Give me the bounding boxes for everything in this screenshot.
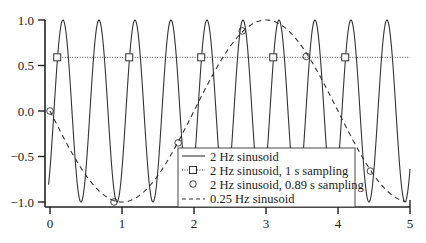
x-tick-label: 5 — [407, 216, 414, 231]
x-tick-label: 2 — [191, 216, 198, 231]
y-tick-label: 0.5 — [18, 58, 34, 73]
x-tick-label: 1 — [119, 216, 126, 231]
x-tick-label: 0 — [47, 216, 54, 231]
legend-label: 2 Hz sinusoid, 1 s sampling — [210, 164, 349, 178]
x-tick-label: 3 — [263, 216, 270, 231]
circle-marker — [175, 140, 182, 147]
square-marker — [126, 54, 133, 61]
y-tick-label: −0.5 — [10, 149, 34, 164]
y-tick-label: 0.0 — [18, 104, 34, 119]
square-marker — [342, 54, 349, 61]
legend-label: 2 Hz sinusoid, 0.89 s sampling — [210, 178, 365, 192]
legend-label: 2 Hz sinusoid — [210, 150, 280, 164]
square-marker — [198, 54, 205, 61]
x-tick-label: 4 — [335, 216, 342, 231]
legend: 2 Hz sinusoid 2 Hz sinusoid, 1 s samplin… — [178, 148, 365, 207]
aliasing-chart: 1.0 0.5 0.0 −0.5 −1.0 0 1 2 3 4 5 2 Hz s… — [0, 0, 426, 243]
y-axis-ticks: 1.0 0.5 0.0 −0.5 −1.0 — [10, 13, 45, 210]
square-marker — [270, 54, 277, 61]
y-tick-label: −1.0 — [10, 195, 34, 210]
y-tick-label: 1.0 — [18, 13, 34, 28]
legend-square-marker-icon — [190, 167, 197, 174]
square-marker — [54, 54, 61, 61]
legend-label: 0.25 Hz sinusoid — [210, 192, 295, 206]
